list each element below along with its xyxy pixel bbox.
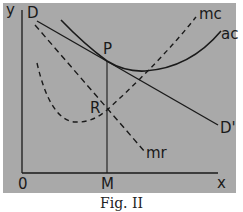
economics-diagram bbox=[0, 0, 243, 212]
ac-label: ac bbox=[221, 27, 238, 42]
point-r-label: R bbox=[90, 101, 100, 116]
mr-label: mr bbox=[146, 146, 167, 161]
x-axis-label: x bbox=[217, 176, 226, 191]
demand-curve bbox=[37, 21, 218, 125]
average-cost-curve bbox=[61, 20, 221, 71]
origin-label: 0 bbox=[18, 177, 28, 192]
marginal-cost-curve bbox=[37, 17, 196, 122]
demand-start-label: D bbox=[27, 6, 39, 21]
mc-label: mc bbox=[199, 7, 222, 22]
m-label: M bbox=[101, 177, 114, 192]
point-p-label: P bbox=[103, 42, 112, 57]
figure-caption: Fig. II bbox=[0, 196, 243, 210]
demand-end-label: D' bbox=[220, 121, 236, 136]
marginal-revenue-curve bbox=[35, 25, 145, 152]
y-axis-label: y bbox=[6, 3, 15, 18]
